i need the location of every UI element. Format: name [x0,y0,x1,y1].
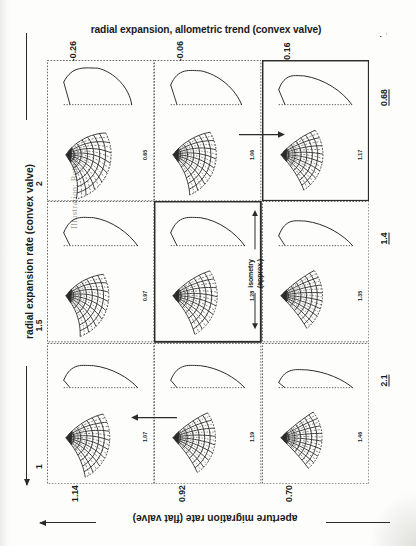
scan-edge-shadow [0,0,10,546]
right-tick-3: 2.1 [378,362,391,398]
valve-outline [171,70,242,104]
panel-inner [47,201,154,342]
isometry-line2: (approx.) [255,259,262,288]
growth-mesh [280,130,322,190]
panel-artwork [47,60,154,201]
panel-value-label: 1.19 [248,426,256,448]
panel-r2-c1[interactable]: 0.97 [47,201,154,342]
top-axis-label-region: radial expansion, allometric trend (conv… [26,0,386,36]
growth-mesh [66,133,111,199]
growth-mesh [280,271,322,329]
transition-arrow-1 [237,125,287,134]
panel-artwork [262,343,369,484]
right-tick-1: 0.68 [378,80,391,116]
panel-border [262,343,368,483]
growth-mesh [173,271,218,335]
valve-outline [278,221,352,246]
panel-value-label: 0.97 [141,285,149,307]
growth-mesh [173,132,217,195]
panel-inner [262,201,369,342]
bottom-axis-label: aperture migration rate (flat valve) [40,513,390,524]
panel-r1-c1[interactable]: 0.65 [47,60,154,201]
panel-value-label: 0.65 [141,144,149,166]
valve-outline [278,369,352,387]
top-axis-label: radial expansion, allometric trend (conv… [26,24,386,35]
transition-arrow-2 [129,408,179,417]
growth-mesh [173,413,216,473]
panel-r2-c3[interactable]: 1.35 [262,201,369,342]
valve-outline [64,218,138,246]
valve-outline [171,218,245,246]
panel-matrix: 0.65 1.06 [47,60,369,484]
valve-outline [64,68,132,105]
panel-value-label: 1.46 [356,426,364,448]
panel-value-label: 1.17 [356,144,364,166]
valve-outline [64,365,138,387]
row-tick-2: 1.5 [33,308,46,342]
valve-outline [278,76,351,105]
panel-r3-c3[interactable]: 1.46 [262,343,369,484]
growth-mesh [66,275,109,337]
panel-inner [262,343,369,484]
growth-mesh [280,412,321,468]
panel-value-label: 1.35 [356,285,364,307]
right-tick-2: 1.4 [378,221,391,257]
figure-page: Illustration; Bottom radial expansion, a… [0,0,416,546]
valve-outline [171,365,245,387]
row-tick-1: 2 [33,167,46,201]
row-tick-3: 1 [33,449,46,483]
panel-border [262,202,368,342]
isometry-line1: isometry [246,259,253,287]
isometry-annotation-label: isometry(approx.) [246,249,263,299]
panel-artwork [47,201,154,342]
panel-inner [47,60,154,201]
panel-artwork [262,201,369,342]
panel-value-label: 1.06 [248,144,256,166]
growth-mesh [66,414,110,477]
panel-value-label: 1.07 [141,426,149,448]
